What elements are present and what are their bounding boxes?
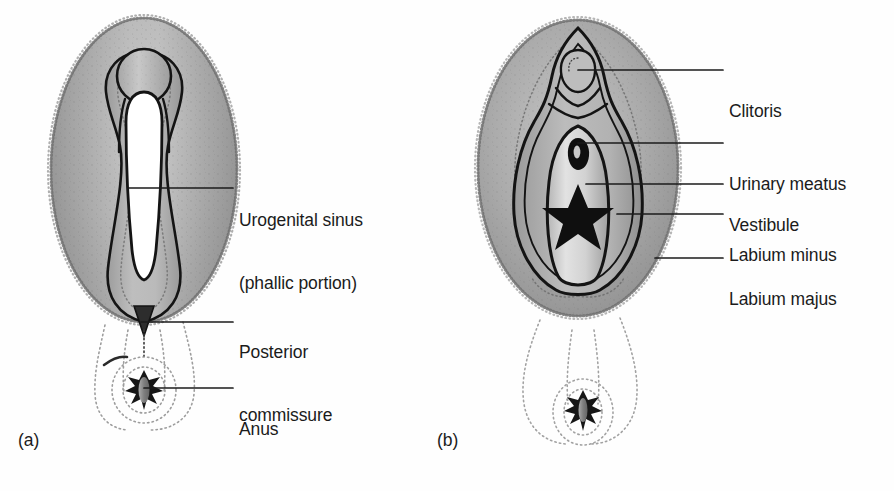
panel-a-anus xyxy=(125,370,163,410)
callout-label-labium-majus-line1: Labium majus xyxy=(729,289,837,310)
panel-b-drawing xyxy=(475,17,723,445)
anatomical-figure: Urogenital sinus (phallic portion) Poste… xyxy=(0,0,894,491)
callout-label-posterior-commissure-line1: Posterior xyxy=(239,342,332,363)
panel-a-urogenital-sinus-opening xyxy=(126,92,162,280)
panel-letter-a: (a) xyxy=(18,430,39,451)
callout-label-labium-majus: Labium majus xyxy=(729,247,837,352)
panel-b-perineum-dotted-guides xyxy=(523,318,637,445)
callout-label-anus: Anus xyxy=(239,377,279,482)
callout-label-anus-line1: Anus xyxy=(239,419,279,440)
callout-label-clitoris-line1: Clitoris xyxy=(729,101,782,122)
panel-a-drawing xyxy=(48,15,240,430)
callout-label-urogenital-sinus-line1: Urogenital sinus xyxy=(239,210,363,231)
callout-label-urogenital-sinus-line2: (phallic portion) xyxy=(239,273,363,294)
panel-b-clitoris xyxy=(561,50,595,92)
panel-letter-b: (b) xyxy=(437,430,458,451)
